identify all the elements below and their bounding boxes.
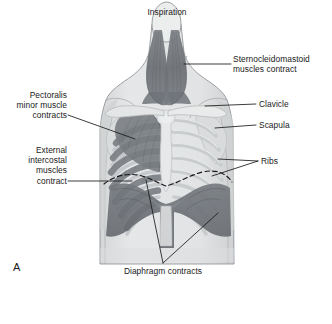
- label-sternocleidomastoid: Sternocleidomastoid muscles contract: [233, 54, 332, 74]
- panel-letter: A: [13, 261, 20, 273]
- label-diaphragm: Diaphragm contracts: [102, 266, 224, 276]
- label-inspiration: Inspiration: [132, 7, 202, 17]
- label-external-intercostal: External intercostal muscles contract: [5, 145, 67, 186]
- label-ribs: Ribs: [261, 156, 321, 166]
- label-pectoralis-minor: Pectoralis minor muscle contracts: [5, 90, 67, 121]
- label-clavicle: Clavicle: [259, 99, 329, 109]
- label-scapula: Scapula: [259, 120, 329, 130]
